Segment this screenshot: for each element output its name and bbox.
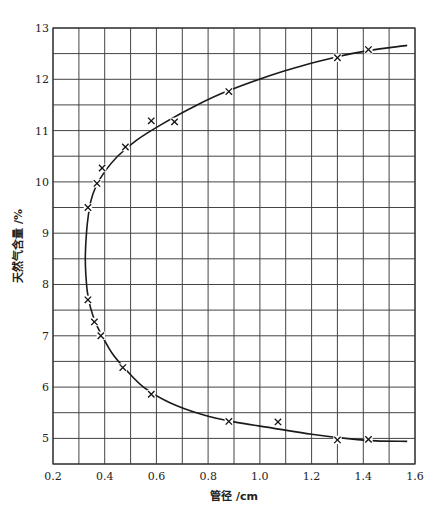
x-tick-label: 1.2 [303, 470, 321, 483]
data-point-x-marker [225, 417, 233, 425]
data-point-x-marker [364, 45, 372, 53]
data-point-x-marker [90, 318, 98, 326]
data-point-x-marker [364, 435, 372, 443]
x-axis-ticks: 0.20.40.60.81.01.21.41.6 [44, 470, 424, 483]
data-point-x-marker [84, 296, 92, 304]
data-point-x-marker [93, 179, 101, 187]
data-point-x-marker [97, 332, 105, 340]
data-point-x-marker [121, 143, 129, 151]
x-tick-label: 1.6 [406, 470, 424, 483]
data-point-x-marker [333, 436, 341, 444]
y-tick-label: 7 [42, 330, 49, 343]
x-tick-label: 1.0 [251, 470, 269, 483]
x-tick-label: 1.4 [355, 470, 373, 483]
x-tick-label: 0.4 [96, 470, 114, 483]
data-point-x-marker [274, 418, 282, 426]
y-tick-label: 8 [42, 278, 49, 291]
data-point-x-marker [170, 118, 178, 126]
data-point-x-marker [119, 363, 127, 371]
data-point-x-marker [147, 390, 155, 398]
x-tick-label: 0.6 [148, 470, 166, 483]
y-axis-label: 天然气含量 /% [11, 209, 25, 283]
x-tick-label: 0.8 [199, 470, 217, 483]
grid [53, 28, 415, 464]
y-tick-label: 6 [42, 381, 49, 394]
data-point-x-marker [225, 87, 233, 95]
y-tick-label: 13 [35, 22, 49, 35]
y-tick-label: 9 [42, 227, 49, 240]
y-tick-label: 12 [35, 73, 49, 86]
x-tick-label: 0.2 [44, 470, 62, 483]
y-tick-label: 10 [35, 176, 49, 189]
y-tick-label: 5 [42, 432, 49, 445]
data-point-x-marker [98, 164, 106, 172]
chart: 0.20.40.60.81.01.21.41.6 5678910111213 管… [0, 0, 440, 519]
data-point-x-marker [333, 54, 341, 62]
data-point-x-marker [147, 117, 155, 125]
y-tick-label: 11 [35, 125, 49, 138]
data-point-x-marker [84, 203, 92, 211]
x-axis-label: 管径 /cm [210, 489, 258, 503]
y-axis-ticks: 5678910111213 [35, 22, 49, 445]
